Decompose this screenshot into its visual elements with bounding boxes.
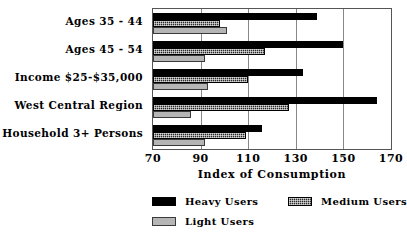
x-tick-170: 170 (379, 152, 403, 165)
category-axis-labels: Ages 35 - 44 Ages 45 - 54 Income $25-$35… (0, 8, 148, 150)
bar-light-1 (153, 55, 205, 62)
bar-medium-3 (153, 104, 289, 111)
category-label-3: West Central Region (14, 100, 143, 111)
plot-area (152, 8, 392, 150)
bar-medium-4 (153, 132, 246, 139)
x-tick-130: 130 (284, 152, 308, 165)
legend-label-light: Light Users (185, 216, 254, 227)
bar-heavy-1 (153, 41, 343, 48)
bar-heavy-4 (153, 125, 262, 132)
bar-group-1 (153, 37, 391, 65)
bar-group-0 (153, 9, 391, 37)
bar-light-4 (153, 139, 205, 146)
bar-light-2 (153, 83, 208, 90)
x-tick-110: 110 (236, 152, 260, 165)
x-tick-90: 90 (192, 152, 208, 165)
legend-entry-light: Light Users (152, 216, 254, 227)
category-label-2: Income $25-$35,000 (15, 72, 143, 83)
bar-heavy-2 (153, 69, 303, 76)
bar-group-4 (153, 121, 391, 149)
bar-medium-2 (153, 76, 248, 83)
bar-light-0 (153, 27, 227, 34)
legend-label-heavy: Heavy Users (185, 196, 258, 207)
bar-heavy-0 (153, 13, 317, 20)
x-axis-title: Index of Consumption (152, 168, 392, 181)
x-tick-150: 150 (331, 152, 355, 165)
bar-medium-0 (153, 20, 220, 27)
x-axis-tick-labels: 7090110130150170 (152, 152, 392, 166)
bar-medium-1 (153, 48, 265, 55)
chart-legend: Heavy Users Medium Users Light Users (152, 196, 402, 240)
bar-group-3 (153, 93, 391, 121)
x-tick-70: 70 (145, 152, 161, 165)
bar-light-3 (153, 111, 191, 118)
legend-entry-heavy: Heavy Users (152, 196, 258, 207)
legend-entry-medium: Medium Users (288, 196, 407, 207)
bar-heavy-3 (153, 97, 377, 104)
category-label-0: Ages 35 - 44 (66, 16, 143, 27)
legend-swatch-medium-icon (288, 197, 312, 206)
legend-swatch-light-icon (152, 217, 176, 226)
legend-label-medium: Medium Users (321, 196, 407, 207)
category-label-1: Ages 45 - 54 (66, 44, 143, 55)
bar-group-2 (153, 65, 391, 93)
legend-swatch-heavy-icon (152, 197, 176, 206)
category-label-4: Household 3+ Persons (2, 128, 143, 139)
